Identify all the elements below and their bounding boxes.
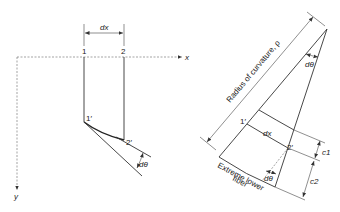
top-dtheta-arc [306,54,318,57]
deflection-curve [84,122,124,140]
radius-extension-top [307,12,325,26]
upper-arc [259,110,294,130]
tangent-at-2 [116,137,151,157]
point-1-prime-label-right: 1′ [240,117,246,126]
right-panel: dθ dθ Radius of curvature, ρ 1′ dx 2′ c1… [200,12,330,200]
beam-bending-diagram: x y dx 1 2 1′ 2′ dθ dθ [0,0,340,212]
point-2-label: 2 [121,47,126,56]
c-extension-bottom [275,187,305,200]
point-2-prime-label-right: 2′ [287,143,293,152]
tangent-at-1 [84,122,142,176]
radius-dimension-line [207,17,313,142]
dx-label: dx [100,23,109,32]
d-theta-label: dθ [139,160,148,169]
dx-label-right: dx [263,129,272,138]
point-2-prime-label: 2′ [126,138,132,147]
left-panel: x y dx 1 2 1′ 2′ dθ [13,23,190,201]
c1-dimension-line [315,141,320,158]
c-extension-mid [288,148,320,161]
radius-label: Radius of curvature, ρ [225,38,283,104]
y-axis-label: y [13,192,19,201]
point-1-label: 1 [82,47,87,56]
point-1-prime-label: 1′ [86,114,92,123]
c2-label: c2 [310,177,319,186]
top-dtheta-label: dθ [305,60,314,69]
c1-label: c1 [322,148,330,157]
radius-extension-bottom [200,137,216,150]
x-axis-label: x [184,53,190,62]
lower-dtheta-label: dθ [264,174,273,183]
c-extension-top [294,130,325,143]
